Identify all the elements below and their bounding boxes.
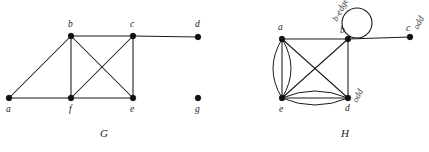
vertex-label-G-d: d <box>195 19 200 29</box>
vertex-label-G-g: g <box>195 104 200 114</box>
vertex-H-e[interactable] <box>279 95 285 101</box>
vertex-label-H-c: c <box>406 23 411 33</box>
self-loop-b <box>342 8 372 38</box>
vertex-H-a[interactable] <box>279 36 285 42</box>
scribble-c: odd <box>411 14 426 31</box>
vertex-G-c[interactable] <box>130 33 136 39</box>
vertex-G-f[interactable] <box>68 95 74 101</box>
edge-c-d <box>133 36 198 37</box>
vertex-G-e[interactable] <box>130 95 136 101</box>
edge-e-d <box>282 91 348 98</box>
vertex-label-G-b: b <box>68 19 73 29</box>
vertex-H-c[interactable] <box>407 34 413 40</box>
caption-G: G <box>100 127 108 139</box>
vertex-label-G-c: c <box>130 19 135 29</box>
vertex-G-b[interactable] <box>68 33 74 39</box>
vertex-G-a[interactable] <box>6 95 12 101</box>
graph-figure: abcdefg abcde b-edgeoddodd G H <box>0 0 429 152</box>
vertex-G-g[interactable] <box>195 95 201 101</box>
graph-G: abcdefg <box>6 19 201 114</box>
graph-H: abcde <box>273 8 413 114</box>
edge-e-d <box>282 98 348 105</box>
vertex-label-G-e: e <box>130 104 134 114</box>
vertex-label-H-d: d <box>345 103 350 113</box>
caption-H: H <box>340 127 350 139</box>
vertex-label-H-b: b <box>340 25 345 35</box>
vertex-label-H-a: a <box>278 22 283 32</box>
vertex-H-b[interactable] <box>345 36 351 42</box>
edge-a-e <box>282 39 291 98</box>
edge-a-e <box>273 39 282 98</box>
vertex-label-G-a: a <box>6 104 11 114</box>
vertex-label-G-f: f <box>69 104 73 114</box>
vertex-G-d[interactable] <box>195 34 201 40</box>
scribble-d: odd <box>350 87 365 104</box>
figure-page: abcdefg abcde b-edgeoddodd G H <box>0 0 429 152</box>
edge-a-b <box>9 36 71 98</box>
vertex-label-H-e: e <box>279 104 283 114</box>
